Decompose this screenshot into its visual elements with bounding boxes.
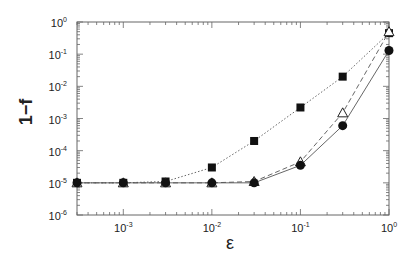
circle-marker [161,178,170,187]
y-tick-label: 10-5 [49,177,68,190]
square-marker [296,103,304,111]
data-series [72,27,394,188]
triangle-marker [338,108,348,117]
y-tick-label: 10-3 [49,113,68,126]
circle-marker [250,178,259,187]
y-tick-label: 10-1 [49,48,68,61]
x-tick-label: 10-3 [114,221,133,234]
square-marker [208,163,216,171]
square-marker [339,73,347,81]
circle-marker [73,178,82,187]
circle-marker [296,161,305,170]
square-marker [250,137,258,145]
x-tick-label: 10-2 [203,221,222,234]
log-log-chart: 10-310-210-110010010-110-210-310-410-510… [0,0,414,260]
circle-marker [385,46,394,55]
y-tick-label: 10-2 [49,80,68,93]
circle-marker [207,178,216,187]
y-tick-label: 10-6 [49,209,68,222]
x-tick-label: 10-1 [291,221,310,234]
y-tick-label: 10-4 [49,145,68,158]
series-triangle-open [72,27,394,187]
x-axis-label: ε [226,233,234,253]
circle-marker [338,121,347,130]
circle-marker [119,178,128,187]
x-tick-label: 100 [381,221,397,234]
y-axis-label: 1−f [16,98,36,126]
y-tick-label: 100 [51,16,67,29]
